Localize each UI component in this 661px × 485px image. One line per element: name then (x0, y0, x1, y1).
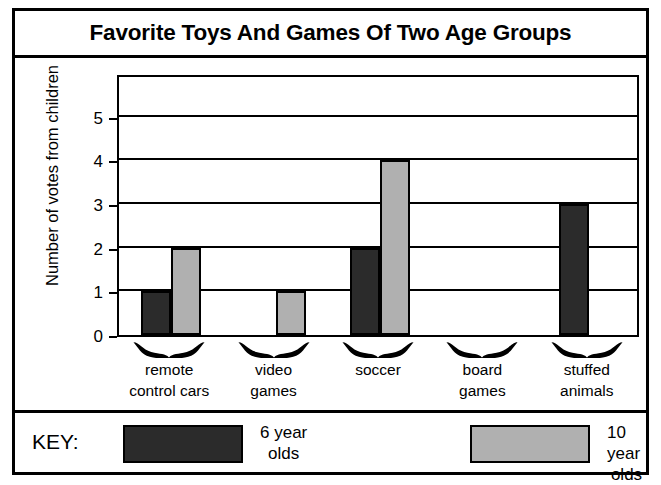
y-tick-label-3: 3 (77, 197, 103, 214)
gridline-5 (119, 115, 637, 117)
x-category-label: video (221, 360, 325, 379)
legend-swatch-0 (123, 425, 243, 463)
bar-ten-year-olds-2 (380, 160, 410, 335)
legend-title: KEY: (32, 430, 79, 454)
y-tick-label-5: 5 (77, 110, 103, 127)
x-category-4: stuffedanimals (535, 339, 639, 400)
plot-region: Number of votes from children 012345 rem… (15, 58, 646, 410)
x-category-2: soccer (326, 339, 430, 379)
legend-label-line2: olds (260, 443, 307, 464)
x-category-label: games (221, 381, 325, 400)
y-tick-label-4: 4 (77, 153, 103, 170)
legend-label-0: 6 yearolds (260, 422, 307, 464)
x-category-0: remotecontrol cars (117, 339, 221, 400)
y-tick-mark-0 (109, 336, 117, 338)
gridline-4 (119, 158, 637, 160)
x-category-3: boardgames (430, 339, 534, 400)
x-category-label: animals (535, 381, 639, 400)
x-category-label: soccer (326, 360, 430, 379)
curly-brace-down-icon (341, 341, 415, 358)
bar-six-year-olds-4 (559, 204, 589, 335)
x-category-label: games (430, 381, 534, 400)
y-tick-mark-4 (109, 161, 117, 163)
legend-label-line2: olds (607, 464, 646, 485)
curly-brace-down-icon (445, 341, 519, 358)
y-tick-label-0: 0 (77, 328, 103, 345)
bar-six-year-olds-0 (141, 291, 171, 335)
y-tick-label-2: 2 (77, 241, 103, 258)
title-band: Favorite Toys And Games Of Two Age Group… (15, 11, 646, 58)
x-axis-categories: remotecontrol carsvideogamessoccerboardg… (117, 339, 639, 407)
page-title: Favorite Toys And Games Of Two Age Group… (90, 20, 572, 46)
y-tick-mark-5 (109, 118, 117, 120)
x-category-1: videogames (221, 339, 325, 400)
legend: KEY: 6 yearolds10 yearolds (15, 410, 646, 472)
legend-label-1: 10 yearolds (607, 422, 646, 485)
curly-brace-down-icon (550, 341, 624, 358)
y-tick-label-1: 1 (77, 284, 103, 301)
bar-ten-year-olds-0 (171, 248, 201, 335)
plot-area (117, 75, 639, 337)
y-axis-title: Number of votes from children (43, 47, 62, 305)
bar-six-year-olds-2 (350, 248, 380, 335)
bar-ten-year-olds-1 (276, 291, 306, 335)
x-category-label: control cars (117, 381, 221, 400)
y-tick-mark-1 (109, 292, 117, 294)
legend-label-line1: 6 year (260, 422, 307, 443)
curly-brace-down-icon (132, 341, 206, 358)
x-category-label: stuffed (535, 360, 639, 379)
chart-frame: Favorite Toys And Games Of Two Age Group… (12, 8, 649, 475)
legend-label-line1: 10 year (607, 422, 646, 464)
curly-brace-down-icon (237, 341, 311, 358)
y-tick-mark-3 (109, 205, 117, 207)
x-category-label: remote (117, 360, 221, 379)
legend-swatch-1 (470, 425, 590, 463)
y-tick-mark-2 (109, 249, 117, 251)
x-category-label: board (430, 360, 534, 379)
